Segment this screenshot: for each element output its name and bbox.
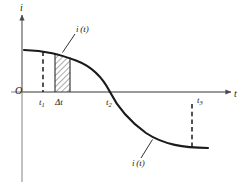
curve-label-bottom: i (t): [132, 159, 145, 168]
plot-canvas: [0, 0, 246, 182]
t3-tick-label: t3: [197, 96, 203, 106]
curve-label-top: i (t): [76, 25, 89, 34]
origin-label: O: [15, 86, 22, 96]
upper-label-leader-line: [63, 34, 76, 53]
lower-label-leader-line: [141, 140, 153, 159]
delta-t-shaded-element: [55, 54, 70, 92]
x-axis-label: t: [234, 89, 237, 99]
delta-t-label: Δt: [55, 98, 63, 107]
current-curve: [24, 50, 208, 148]
t2-tick-label: t2: [106, 98, 112, 108]
y-axis-label: i: [20, 3, 23, 13]
current-vs-time-figure: i t O t1 Δt t2 t3 i (t) i (t): [0, 0, 246, 182]
t1-tick-label: t1: [39, 98, 45, 108]
